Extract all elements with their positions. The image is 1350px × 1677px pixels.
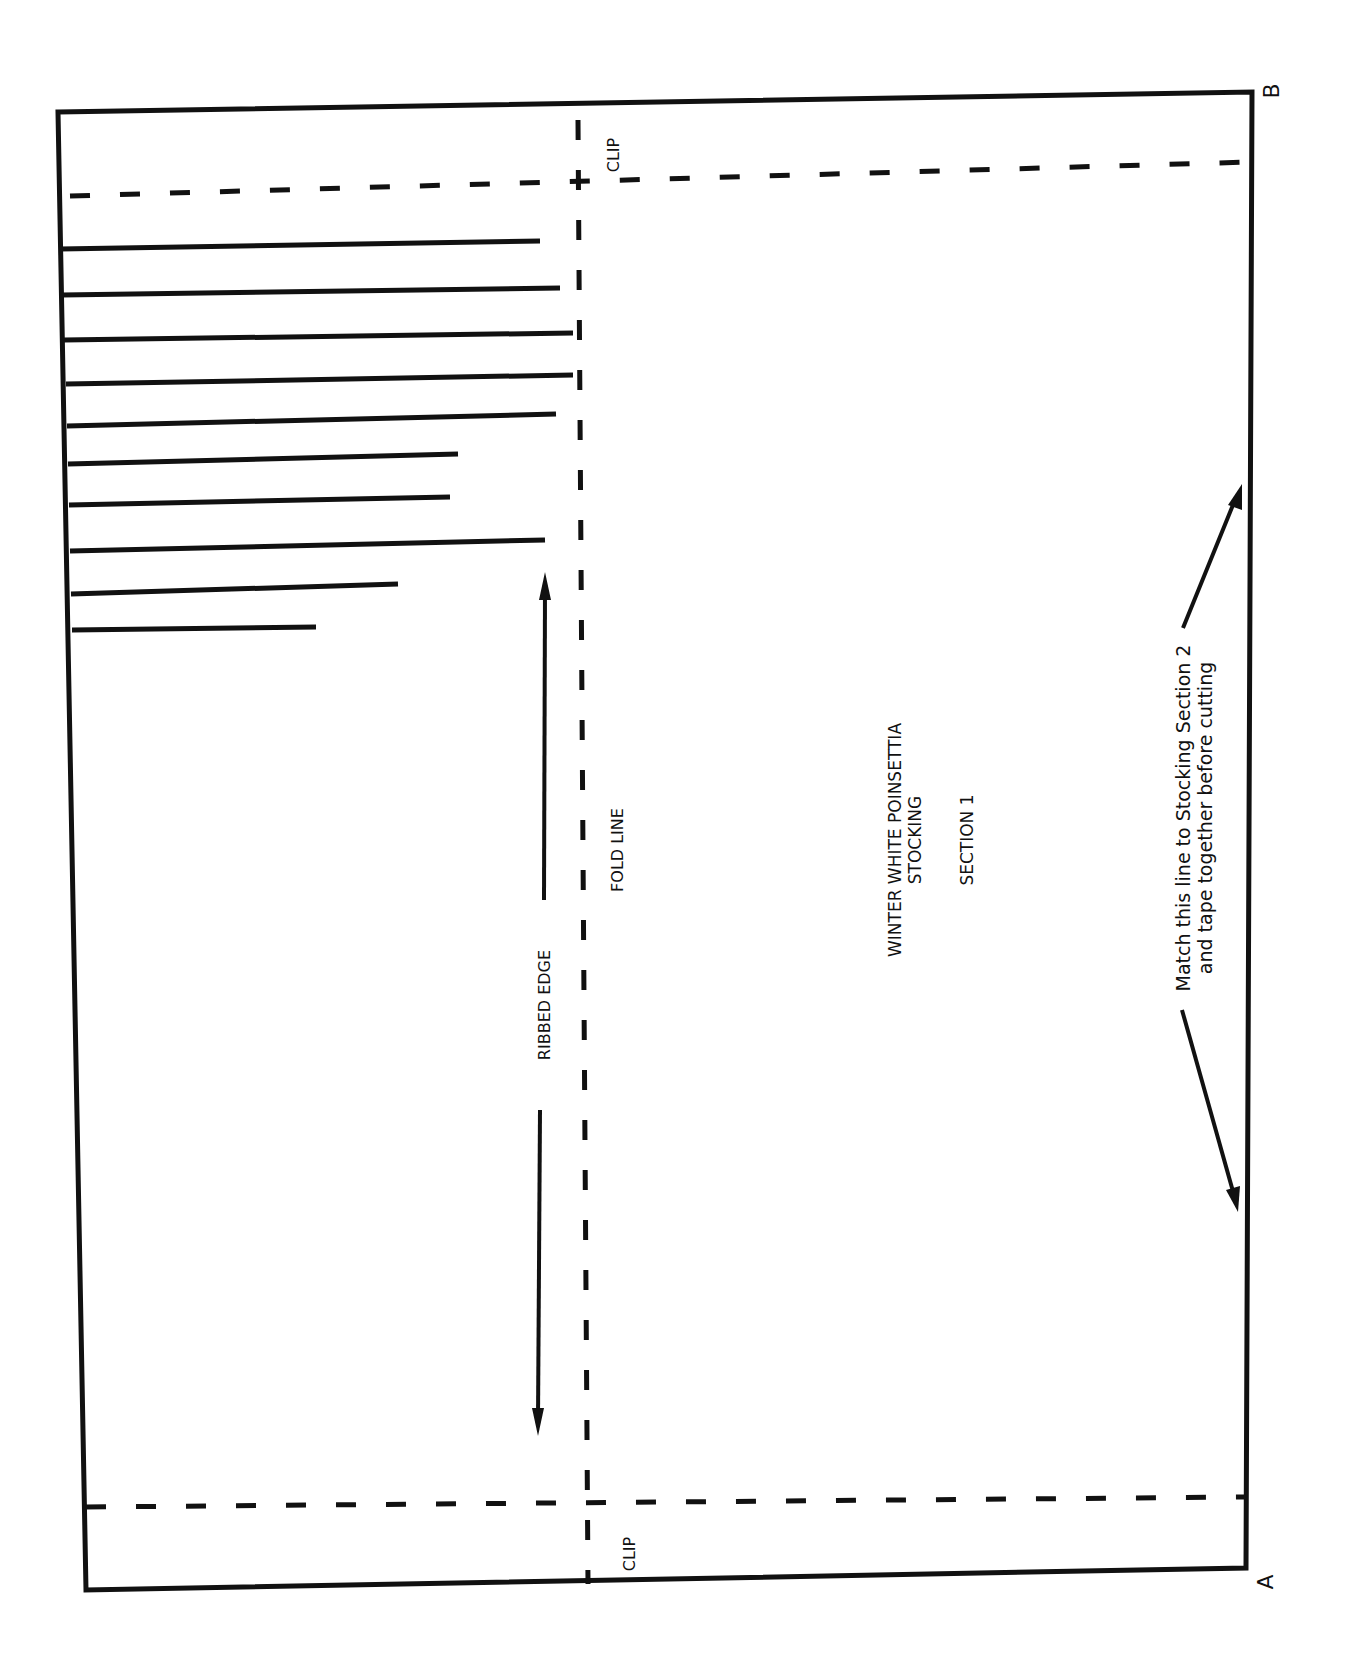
pattern-outline — [58, 92, 1252, 1590]
corner-label-b: B — [1259, 83, 1284, 98]
corner-label-a: A — [1253, 1574, 1278, 1589]
stocking-pattern-drawing — [0, 0, 1350, 1677]
ribbed-edge-label: RIBBED EDGE — [536, 950, 554, 1060]
fold-line-label: FOLD LINE — [609, 808, 627, 892]
pattern-title-block: WINTER WHITE POINSETTIA STOCKING — [886, 723, 925, 957]
match-note-line2: and tape together before cutting — [1195, 645, 1217, 992]
pattern-title-line1: WINTER WHITE POINSETTIA — [886, 723, 906, 957]
match-note: Match this line to Stocking Section 2 an… — [1173, 645, 1217, 992]
ribbed-edge-lines — [60, 241, 573, 630]
section-label: SECTION 1 — [958, 794, 978, 885]
match-note-line1: Match this line to Stocking Section 2 — [1173, 645, 1195, 992]
clip-label-top: CLIP — [605, 138, 623, 172]
pattern-title-line2: STOCKING — [906, 723, 926, 957]
clip-line-top — [70, 162, 1250, 196]
clip-line-bottom — [86, 1497, 1246, 1507]
fold-line — [578, 120, 588, 1584]
clip-label-bottom: CLIP — [621, 1537, 639, 1571]
